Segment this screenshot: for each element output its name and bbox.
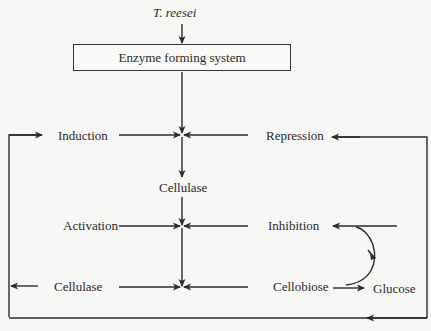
source-organism-label: T. reesei: [153, 6, 196, 19]
repression-label: Repression: [266, 129, 324, 142]
enzyme-forming-system-label: Enzyme forming system: [118, 50, 245, 66]
cellulase-mid-label: Cellulase: [159, 181, 207, 194]
cellobiose-label: Cellobiose: [273, 280, 329, 293]
glucose-label: Glucose: [373, 282, 416, 295]
curved-feedback: [346, 227, 375, 285]
loop-left: [9, 135, 42, 317]
inhibition-label: Inhibition: [268, 219, 319, 232]
activation-label: Activation: [63, 219, 118, 232]
induction-label: Induction: [58, 129, 108, 142]
enzyme-forming-system-box: Enzyme forming system: [73, 44, 291, 71]
cellulase-regulation-diagram: T. reesei Enzyme forming system Inductio…: [0, 0, 431, 331]
cellulase-out-label: Cellulase: [54, 280, 102, 293]
